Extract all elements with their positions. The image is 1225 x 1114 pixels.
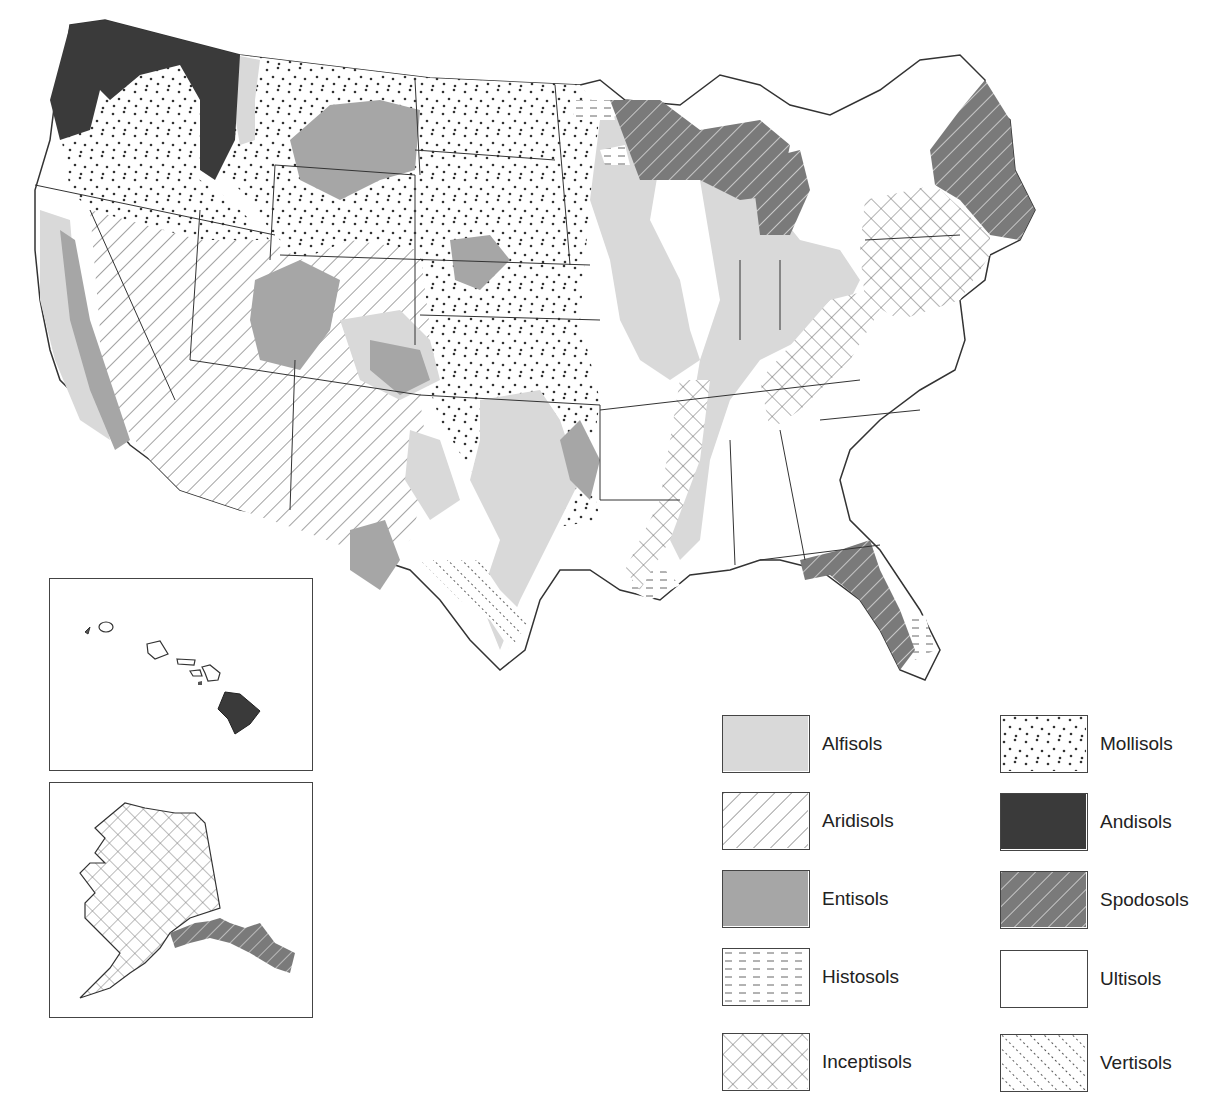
- entisols-swatch: [722, 870, 810, 928]
- legend-item-mollisols: Mollisols: [1000, 715, 1173, 773]
- legend-label: Alfisols: [822, 733, 882, 755]
- legend-label: Andisols: [1100, 811, 1172, 833]
- legend-label: Ultisols: [1100, 968, 1161, 990]
- legend-label: Inceptisols: [822, 1051, 912, 1073]
- legend-item-alfisols: Alfisols: [722, 715, 882, 773]
- legend-item-vertisols: Vertisols: [1000, 1034, 1172, 1092]
- legend-label: Entisols: [822, 888, 889, 910]
- legend-item-inceptisols: Inceptisols: [722, 1033, 912, 1091]
- inceptisols-swatch: [722, 1033, 810, 1091]
- hawaii-inset: [49, 578, 313, 771]
- legend-label: Spodosols: [1100, 889, 1189, 911]
- legend-item-ultisols: Ultisols: [1000, 950, 1161, 1008]
- legend-label: Vertisols: [1100, 1052, 1172, 1074]
- legend-item-aridisols: Aridisols: [722, 792, 894, 850]
- alaska-map: [50, 783, 311, 1016]
- hawaii-map: [50, 579, 311, 769]
- vertisols-swatch: [1000, 1034, 1088, 1092]
- histosols-swatch: [722, 948, 810, 1006]
- alaska-inset: [49, 782, 313, 1018]
- ultisols-swatch: [1000, 950, 1088, 1008]
- legend-item-entisols: Entisols: [722, 870, 889, 928]
- alfisols-swatch: [722, 715, 810, 773]
- legend-item-histosols: Histosols: [722, 948, 899, 1006]
- andisols-swatch: [1000, 793, 1088, 851]
- legend-label: Mollisols: [1100, 733, 1173, 755]
- spodosols-swatch: [1000, 871, 1088, 929]
- legend-label: Aridisols: [822, 810, 894, 832]
- legend-label: Histosols: [822, 966, 899, 988]
- legend-item-spodosols: Spodosols: [1000, 871, 1189, 929]
- mollisols-swatch: [1000, 715, 1088, 773]
- legend-item-andisols: Andisols: [1000, 793, 1172, 851]
- aridisols-swatch: [722, 792, 810, 850]
